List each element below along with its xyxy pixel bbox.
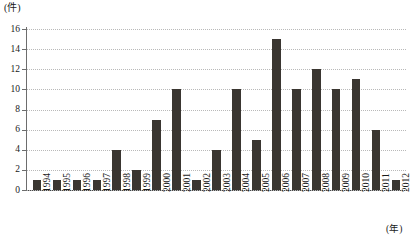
y-axis-tick-mark bbox=[22, 170, 27, 171]
x-axis-tick: 2001 bbox=[171, 191, 183, 237]
bar bbox=[33, 180, 42, 190]
x-axis-tick: 1996 bbox=[71, 191, 83, 237]
y-axis-tick-mark bbox=[22, 69, 27, 70]
y-axis-tick-label: 4 bbox=[2, 145, 20, 155]
x-axis-tick-label: 2012 bbox=[400, 148, 412, 192]
y-axis-tick-label: 2 bbox=[2, 165, 20, 175]
y-axis-tick-mark bbox=[22, 150, 27, 151]
x-axis-tick: 1998 bbox=[111, 191, 123, 237]
y-axis-tick-mark bbox=[22, 89, 27, 90]
y-axis-tick-mark bbox=[22, 29, 27, 30]
y-axis-tick-label: 16 bbox=[2, 25, 20, 35]
y-axis-tick-label: 8 bbox=[2, 105, 20, 115]
x-axis-tick: 2007 bbox=[290, 191, 302, 237]
x-axis-tick-label: 1995 bbox=[61, 148, 73, 192]
x-axis-tick-label: 2011 bbox=[380, 148, 392, 192]
x-axis-unit-label: (年) bbox=[386, 224, 402, 234]
y-axis-tick-label: 6 bbox=[2, 125, 20, 135]
x-axis-tick-label: 2002 bbox=[201, 148, 213, 192]
bar bbox=[73, 180, 82, 190]
x-axis-tick: 2010 bbox=[350, 191, 362, 237]
bar bbox=[212, 150, 221, 190]
x-axis-tick-label: 2003 bbox=[221, 148, 233, 192]
x-axis-tick-label: 2010 bbox=[360, 148, 372, 192]
x-axis-tick-label: 2008 bbox=[320, 148, 332, 192]
x-axis-tick: 2009 bbox=[330, 191, 342, 237]
y-axis-tick-label: 0 bbox=[2, 186, 20, 196]
y-axis-tick-mark bbox=[22, 110, 27, 111]
x-axis-tick-label: 2006 bbox=[280, 148, 292, 192]
x-axis-tick-label: 2000 bbox=[161, 148, 173, 192]
x-axis-tick: 2002 bbox=[191, 191, 203, 237]
bar bbox=[152, 120, 161, 190]
x-axis-tick: 2005 bbox=[250, 191, 262, 237]
x-axis-tick-label: 2005 bbox=[260, 148, 272, 192]
x-axis-tick: 2004 bbox=[230, 191, 242, 237]
bar-chart: (件) 199419951996199719981999200020012002… bbox=[0, 0, 412, 244]
x-axis-tick: 1994 bbox=[31, 191, 43, 237]
x-axis-tick: 1999 bbox=[131, 191, 143, 237]
y-axis-tick-label: 12 bbox=[2, 65, 20, 75]
x-axis-tick-label: 1999 bbox=[141, 148, 153, 192]
x-axis-tick-label: 1996 bbox=[81, 148, 93, 192]
x-axis-tick: 2003 bbox=[211, 191, 223, 237]
y-axis-tick-mark bbox=[22, 130, 27, 131]
x-axis-tick: 2000 bbox=[151, 191, 163, 237]
y-axis-unit-label: (件) bbox=[4, 2, 21, 14]
x-axis-tick-label: 1997 bbox=[101, 148, 113, 192]
y-axis-tick-mark bbox=[22, 49, 27, 50]
x-axis-tick-label: 2001 bbox=[181, 148, 193, 192]
bar bbox=[53, 180, 62, 190]
bar bbox=[93, 180, 102, 190]
y-axis-tick-label: 10 bbox=[2, 85, 20, 95]
x-axis-tick: 2011 bbox=[370, 191, 382, 237]
x-axis-tick: 2008 bbox=[310, 191, 322, 237]
x-axis-tick-label: 2004 bbox=[240, 148, 252, 192]
y-axis-tick-label: 14 bbox=[2, 45, 20, 55]
x-axis-tick: 2006 bbox=[270, 191, 282, 237]
x-axis-tick-label: 1998 bbox=[121, 148, 133, 192]
x-axis-tick-label: 2009 bbox=[340, 148, 352, 192]
bar bbox=[172, 89, 181, 190]
x-axis-tick: 1995 bbox=[51, 191, 63, 237]
x-axis-labels: 1994199519961997199819992000200120022003… bbox=[27, 191, 406, 244]
x-axis-tick: 1997 bbox=[91, 191, 103, 237]
bar bbox=[192, 180, 201, 190]
x-axis-tick-label: 1994 bbox=[41, 148, 53, 192]
bar bbox=[132, 170, 141, 190]
x-axis-tick-label: 2007 bbox=[300, 148, 312, 192]
y-axis-tick-mark bbox=[22, 190, 27, 191]
bar bbox=[112, 150, 121, 190]
